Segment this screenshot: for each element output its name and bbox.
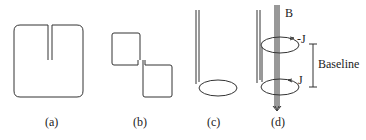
caption-a: (a) (45, 115, 58, 129)
current-label-bottom: J (298, 73, 303, 87)
panel-a-square-loop (14, 25, 83, 97)
panel-c-magnetometer (196, 10, 237, 96)
caption-b: (b) (133, 115, 147, 129)
field-label-b: B (285, 6, 293, 20)
caption-c: (c) (207, 115, 220, 129)
panel-b-figure-eight-loop (112, 33, 172, 97)
current-label-top: -J (297, 32, 306, 46)
caption-d: (d) (271, 115, 285, 129)
baseline-label: Baseline (318, 57, 359, 71)
gradiometer-diagram: B -J J Baseline (a) (b) (c) (d) (0, 0, 366, 140)
panel-d-axial-gradiometer: B -J J Baseline (257, 5, 359, 111)
